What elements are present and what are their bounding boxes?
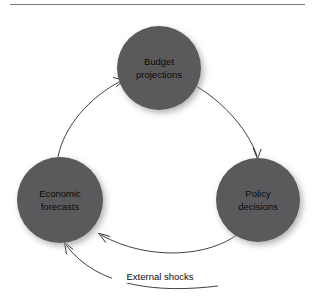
node-label-policy-decisions-line2: decisions (238, 201, 278, 212)
edge-path-budget-to-policy (196, 86, 257, 156)
node-label-economic-forecasts-line1: Economic (39, 188, 81, 199)
edge-label-external-shocks: External shocks (126, 271, 193, 282)
node-label-policy-decisions-line1: Policy (245, 188, 271, 199)
node-budget-projections[interactable]: Budget projections (117, 26, 201, 110)
edge-path-policy-to-economic (101, 234, 238, 253)
diagram-canvas: External shocks Budget projections Polic… (0, 0, 315, 304)
edge-budget-to-policy (196, 86, 261, 159)
node-label-economic-forecasts-line2: forecasts (41, 201, 80, 212)
edge-economic-to-budget (58, 78, 124, 157)
node-label-budget-projections-line1: Budget (144, 56, 174, 67)
node-label-budget-projections-line2: projections (136, 69, 182, 80)
node-economic-forecasts[interactable]: Economic forecasts (17, 157, 103, 243)
edge-policy-to-economic (99, 233, 238, 253)
cycle-diagram: External shocks Budget projections Polic… (0, 0, 315, 304)
arrowhead-into-economic-cycle (99, 233, 110, 242)
node-policy-decisions[interactable]: Policy decisions (216, 158, 300, 242)
edge-path-economic-to-budget (58, 81, 121, 157)
edge-external-shocks-to-economic: External shocks (64, 242, 218, 288)
